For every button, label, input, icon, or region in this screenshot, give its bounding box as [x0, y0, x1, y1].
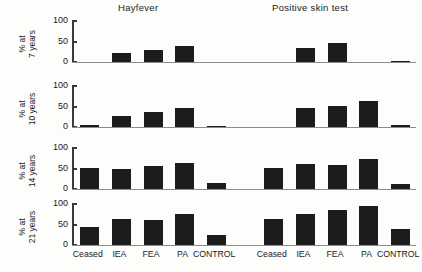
- bar-hayfever-fea: [144, 112, 163, 127]
- bar-skin-control: [391, 229, 410, 245]
- y-axis-tick-label-0: 0: [42, 121, 68, 131]
- bar-skin-ceased: [264, 219, 283, 245]
- bar-hayfever-iea: [112, 116, 131, 127]
- plot-area: [74, 85, 416, 127]
- bar-hayfever-pa: [175, 163, 194, 189]
- bar-hayfever-control: [207, 183, 226, 189]
- y-axis-tick-label-100: 100: [42, 198, 68, 208]
- y-axis-caption-line2: 7 years: [28, 24, 38, 64]
- bar-skin-iea: [296, 214, 315, 245]
- bar-skin-fea: [328, 165, 347, 189]
- bar-hayfever-ceased: [80, 227, 99, 245]
- bar-hayfever-pa: [175, 46, 194, 62]
- y-axis-caption-line2: 21 years: [28, 207, 38, 247]
- y-axis-tick-label-50: 50: [42, 163, 68, 173]
- group-title-hayfever: Hayfever: [118, 2, 158, 13]
- bar-skin-iea: [296, 108, 315, 127]
- panel-21-years: % at21 years100500CeasedIEAFEAPACONTROLC…: [0, 199, 422, 255]
- figure-root: Hayfever Positive skin test % at7 years1…: [0, 0, 422, 272]
- bar-skin-control: [391, 125, 410, 127]
- bar-skin-iea: [296, 164, 315, 189]
- bar-hayfever-fea: [144, 50, 163, 62]
- panel-10-years: % at10 years100500: [0, 81, 422, 137]
- bar-skin-fea: [328, 43, 347, 62]
- group-title-positive-skin-test: Positive skin test: [272, 2, 348, 13]
- y-axis-tick-label-0: 0: [42, 239, 68, 249]
- y-axis-tick-label-50: 50: [42, 219, 68, 229]
- y-axis-tick-label-100: 100: [42, 15, 68, 25]
- x-axis-label-skin-control: CONTROL: [372, 249, 422, 259]
- x-axis-label-hayfever-control: CONTROL: [188, 249, 240, 259]
- bar-hayfever-fea: [144, 166, 163, 189]
- plot-area: [74, 203, 416, 245]
- bar-skin-fea: [328, 106, 347, 127]
- bar-hayfever-ceased: [80, 168, 99, 189]
- bar-skin-pa: [359, 159, 378, 189]
- bar-hayfever-iea: [112, 53, 131, 62]
- bar-skin-ceased: [264, 168, 283, 189]
- group-titles: Hayfever Positive skin test: [0, 0, 422, 16]
- plot-area: [74, 20, 416, 62]
- bar-hayfever-control: [207, 126, 226, 127]
- bar-hayfever-pa: [175, 108, 194, 127]
- y-axis-tick-label-100: 100: [42, 142, 68, 152]
- y-axis-tick-label-100: 100: [42, 80, 68, 90]
- bar-skin-fea: [328, 210, 347, 245]
- bar-hayfever-fea: [144, 220, 163, 245]
- y-axis-caption-line2: 10 years: [28, 89, 38, 129]
- y-axis-tick-label-50: 50: [42, 101, 68, 111]
- y-axis-tick-label-0: 0: [42, 183, 68, 193]
- y-axis-tick-label-0: 0: [42, 56, 68, 66]
- bar-hayfever-iea: [112, 219, 131, 245]
- plot-area: [74, 147, 416, 189]
- bar-skin-pa: [359, 206, 378, 245]
- bar-skin-control: [391, 184, 410, 189]
- bar-hayfever-iea: [112, 169, 131, 189]
- y-axis-caption-line2: 14 years: [28, 151, 38, 191]
- bar-skin-control: [391, 61, 410, 62]
- bar-hayfever-control: [207, 235, 226, 245]
- bar-hayfever-pa: [175, 214, 194, 245]
- bar-hayfever-ceased: [80, 125, 99, 127]
- bar-skin-pa: [359, 101, 378, 127]
- x-axis-labels: CeasedIEAFEAPACONTROLCeasedIEAFEAPACONTR…: [72, 249, 416, 263]
- panel-7-years: % at7 years100500: [0, 16, 422, 72]
- y-axis-tick-label-50: 50: [42, 36, 68, 46]
- bar-skin-iea: [296, 48, 315, 62]
- panel-14-years: % at14 years100500: [0, 143, 422, 199]
